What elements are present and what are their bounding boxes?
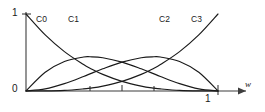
x-axis-label: w bbox=[245, 79, 251, 89]
series-label-c3: C3 bbox=[191, 14, 202, 24]
y-axis-tick-label-1: 1 bbox=[12, 8, 18, 18]
series-label-c1: C1 bbox=[68, 14, 79, 24]
curve-c0 bbox=[26, 14, 218, 91]
curve-c3 bbox=[26, 14, 218, 91]
bernstein-basis-chart: C0 C1 C2 C3 1 0 1 w bbox=[0, 0, 265, 112]
series-label-c0: C0 bbox=[36, 14, 47, 24]
x-axis-tick-label-1: 1 bbox=[205, 94, 211, 104]
origin-tick-label-0: 0 bbox=[12, 84, 18, 94]
series-label-c2: C2 bbox=[159, 14, 170, 24]
